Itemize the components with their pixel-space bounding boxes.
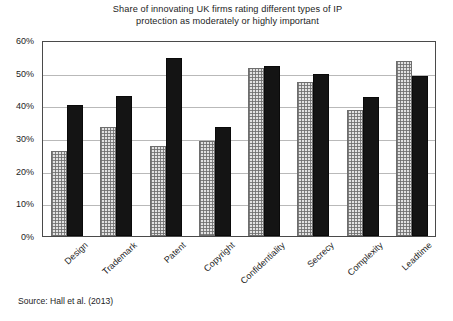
bar-series-dark (264, 66, 280, 236)
bar-series-dark (166, 58, 182, 236)
bar-series-light (51, 151, 67, 236)
y-tick-label: 40% (16, 101, 34, 111)
plot-area (42, 41, 436, 237)
y-axis: 0%10%20%30%40%50%60% (0, 41, 38, 237)
bar-series-light (150, 146, 166, 236)
chart-title-line-2: protection as moderately or highly impor… (55, 15, 400, 27)
bar-group (388, 42, 437, 236)
bar-group (191, 42, 240, 236)
y-tick-label: 20% (16, 167, 34, 177)
bar-group (92, 42, 141, 236)
bar-series-light (248, 68, 264, 236)
bar-series-dark (215, 127, 231, 236)
bar-group (339, 42, 388, 236)
bar-group (43, 42, 92, 236)
bars-layer (43, 42, 435, 236)
chart-title-line-1: Share of innovating UK firms rating diff… (55, 3, 400, 15)
bar-series-dark (313, 74, 329, 236)
y-tick-label: 30% (16, 134, 34, 144)
x-axis: DesignTrademarkPatentCopyrightConfidenti… (42, 238, 436, 300)
bar-series-dark (412, 76, 428, 236)
x-tick-label: Trademark (100, 240, 138, 277)
bar-series-light (100, 127, 116, 236)
y-tick-label: 10% (16, 199, 34, 209)
x-tick-label: Design (62, 240, 89, 266)
x-tick-label: Confidentiality (238, 240, 286, 286)
x-tick-label: Patent (162, 240, 188, 265)
y-tick-label: 60% (16, 36, 34, 46)
bar-series-dark (363, 97, 379, 236)
y-tick-label: 50% (16, 69, 34, 79)
bar-series-dark (116, 96, 132, 236)
bar-series-light (347, 110, 363, 236)
bar-group (240, 42, 289, 236)
source-note: Source: Hall et al. (2013) (18, 296, 113, 306)
bar-series-light (199, 141, 215, 236)
x-tick-label: Secrecy (305, 240, 336, 269)
chart-title: Share of innovating UK firms rating diff… (55, 3, 400, 28)
bar-group (142, 42, 191, 236)
bar-series-light (297, 82, 313, 236)
bar-series-light (396, 61, 412, 236)
x-tick-label: Leadtime (400, 240, 434, 273)
y-tick-label: 0% (21, 232, 34, 242)
bar-series-dark (67, 105, 83, 236)
bar-group (289, 42, 338, 236)
x-tick-label: Copyright (202, 240, 237, 274)
x-tick-label: Complexity (346, 240, 385, 278)
